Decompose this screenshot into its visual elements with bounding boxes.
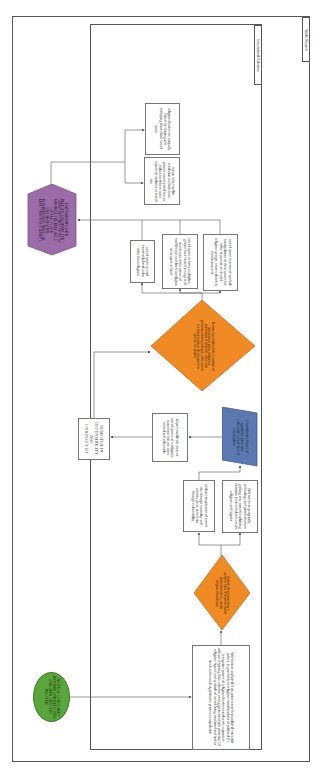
result-b-box: religious leaders are uniquely suited fo… bbox=[145, 103, 180, 155]
branch-a-text: evaluate importance of sacred site throu… bbox=[188, 481, 210, 531]
outcome-c-text: sacred space as arena of symbol: manipul… bbox=[207, 235, 233, 290]
highlight-node: a constitutive theory of significant par… bbox=[224, 414, 256, 460]
determinants-text: DEMOTER IN DEFENSIBILITY ARE UNRESOLVED bbox=[82, 419, 106, 459]
intro-box: differentiate analytical from prior rese… bbox=[192, 645, 250, 750]
intro-box-text: differentiate analytical from prior rese… bbox=[206, 646, 236, 749]
end-node: PARTNERSHIPS WITH RELIGIOUS LEADERS AND … bbox=[30, 194, 74, 246]
branch-b-text: differences in geography, technology and… bbox=[227, 481, 253, 532]
impact-box: impact conflict in areas of sacred space… bbox=[152, 413, 188, 462]
start-node: TEXTUAL CATEGORIES DEFINED AND RELIGIOUS… bbox=[33, 672, 70, 722]
decision-1-text: Outlook: Being sometimes a sacred as val… bbox=[213, 570, 231, 616]
decision-2-text: In some cases indivisibility is product … bbox=[190, 318, 216, 374]
decision-1: Outlook: Being sometimes a sacred as val… bbox=[207, 570, 237, 616]
outcome-a-text: sacred space as void exists only local v… bbox=[134, 241, 151, 282]
impact-box-text: impact conflict in areas of sacred space… bbox=[159, 414, 181, 461]
highlight-text: a constitutive theory of significant par… bbox=[229, 414, 251, 460]
outcome-b-box: sacred space as force multiplier: groups… bbox=[162, 234, 198, 289]
outcome-b-text: sacred space as force multiplier: groups… bbox=[167, 235, 193, 288]
decision-2: In some cases indivisibility is product … bbox=[176, 318, 230, 374]
outcome-a-box: sacred space as void exists only local v… bbox=[130, 240, 155, 283]
result-a-text: reason why conflict resolution methods h… bbox=[147, 158, 177, 204]
end-node-text: PARTNERSHIPS WITH RELIGIOUS LEADERS AND … bbox=[35, 194, 69, 246]
result-b-text: religious leaders are uniquely suited fo… bbox=[152, 104, 174, 154]
outcome-c-box: sacred space as arena of symbol: manipul… bbox=[203, 234, 238, 291]
branch-a-box: evaluate importance of sacred site throu… bbox=[183, 480, 215, 532]
branch-b-box: differences in geography, technology and… bbox=[222, 480, 258, 533]
start-node-text: TEXTUAL CATEGORIES DEFINED AND RELIGIOUS… bbox=[42, 673, 62, 721]
determinants-box: DEMOTER IN DEFENSIBILITY ARE UNRESOLVED bbox=[78, 418, 110, 460]
result-a-box: reason why conflict resolution methods h… bbox=[144, 157, 180, 205]
